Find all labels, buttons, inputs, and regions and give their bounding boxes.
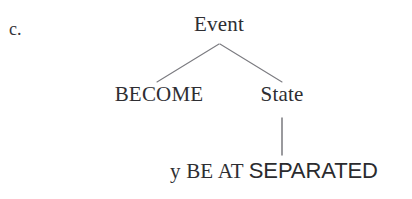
tree-leaf-sans-text: SEPARATED bbox=[249, 158, 378, 184]
branch-event-become bbox=[157, 44, 219, 82]
branch-event-state bbox=[220, 44, 282, 82]
tree-node-become: BECOME bbox=[115, 84, 204, 105]
tree-leaf-serif-text: y BE AT bbox=[170, 159, 244, 184]
tree-leaf-node: y BE AT SEPARATED bbox=[170, 158, 378, 184]
example-enumeration-label: c. bbox=[9, 20, 22, 38]
tree-node-event: Event bbox=[194, 14, 244, 35]
figure-canvas: c. Event BECOME State y BE AT SEPARATED bbox=[0, 0, 412, 199]
tree-node-state: State bbox=[261, 84, 304, 105]
